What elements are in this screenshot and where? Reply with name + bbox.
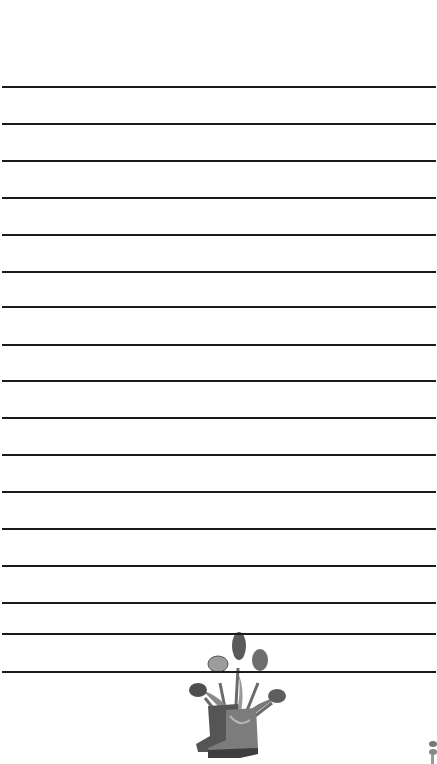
ruled-line [2, 417, 436, 419]
ruled-line [2, 565, 436, 567]
ruled-line [2, 271, 436, 273]
ruled-line [2, 602, 436, 604]
ruled-line [2, 454, 436, 456]
ruled-line [2, 234, 436, 236]
ruled-line [2, 633, 436, 635]
ruled-line [2, 671, 436, 673]
ruled-line [2, 123, 436, 125]
ruled-line [2, 197, 436, 199]
ruled-line [2, 86, 436, 88]
ruled-line [2, 344, 436, 346]
ruled-line [2, 306, 436, 308]
corner-decoration-icon [428, 738, 437, 764]
lined-paper [0, 0, 437, 764]
ruled-line [2, 380, 436, 382]
boots-tulips-illustration [180, 628, 290, 758]
ruled-line [2, 160, 436, 162]
ruled-line [2, 491, 436, 493]
ruled-line [2, 528, 436, 530]
